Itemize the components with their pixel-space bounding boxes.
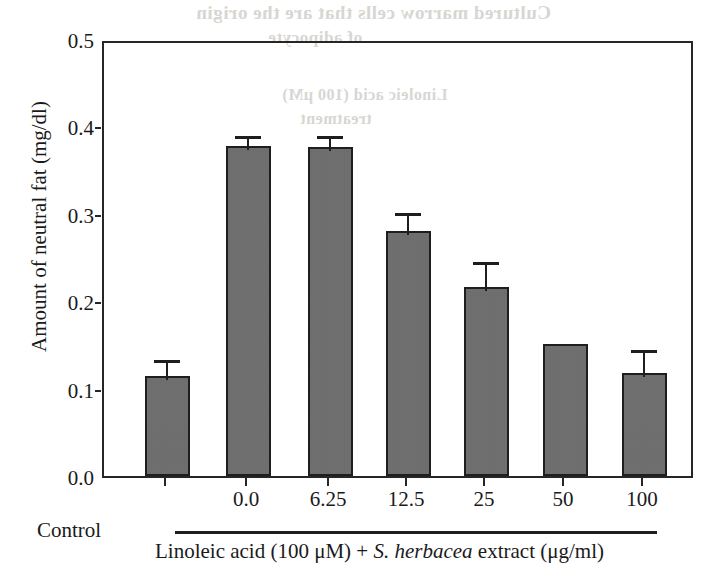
bar-group-50	[543, 39, 588, 476]
error-bar-stem-Control	[166, 363, 168, 379]
error-bar-cap-0-0	[235, 136, 261, 139]
x-tick-mark-1	[245, 478, 247, 486]
y-tick-label-0: 0.0	[68, 466, 94, 491]
x-tick-mark-2	[327, 478, 329, 486]
x-tick-label-25: 25	[474, 487, 495, 512]
plot-area	[102, 41, 693, 478]
error-bar-stem-25	[485, 265, 487, 291]
error-bar-stem-6-25	[329, 139, 331, 152]
bar-6-25	[308, 147, 353, 476]
figure-neutral-fat-bar-chart: Cultured marrow cells that are the origi…	[0, 0, 723, 578]
error-bar-stem-12-5	[407, 216, 409, 235]
error-bar-stem-100	[643, 353, 645, 377]
error-bar-cap-25	[473, 262, 499, 265]
bar-group-0-0	[226, 39, 271, 476]
x-tick-mark-3	[405, 478, 407, 486]
error-bar-cap-6-25	[317, 136, 343, 139]
x-tick-label-50: 50	[553, 487, 574, 512]
y-axis-title: Amount of neutral fat (mg/dl)	[27, 12, 52, 442]
bar-12-5	[386, 231, 431, 476]
bar-25	[464, 287, 509, 476]
x-tick-label-100: 100	[626, 487, 658, 512]
x-tick-label-6-25: 6.25	[310, 487, 347, 512]
bar-group-6-25	[308, 39, 353, 476]
x-tick-mark-0	[164, 478, 166, 486]
x-caption-suffix: extract (μg/ml)	[473, 539, 604, 563]
y-tick-mark-4	[95, 127, 101, 129]
y-tick-mark-2	[95, 302, 101, 304]
error-bar-stem-0-0	[247, 139, 249, 150]
x-axis-caption: Linoleic acid (100 μM) + S. herbacea ext…	[0, 539, 723, 564]
bleed-through-text-1: Cultured marrow cells that are the origi…	[196, 2, 551, 24]
x-caption-prefix: Linoleic acid (100 μM) +	[155, 539, 373, 563]
y-tick-label-2: 0.2	[68, 291, 94, 316]
bar-50	[543, 344, 588, 476]
bar-group-Control	[145, 39, 190, 476]
bar-group-100	[622, 39, 667, 476]
x-tick-mark-5	[562, 478, 564, 486]
y-tick-label-1: 0.1	[68, 378, 94, 403]
bar-0-0	[226, 146, 271, 476]
y-tick-label-3: 0.3	[68, 203, 94, 228]
treatment-group-rule	[175, 531, 657, 534]
y-tick-mark-1	[95, 390, 101, 392]
x-tick-label-0-0: 0.0	[233, 487, 259, 512]
bar-100	[622, 373, 667, 476]
error-bar-cap-Control	[154, 360, 180, 363]
y-tick-label-4: 0.4	[68, 116, 94, 141]
x-tick-label-12-5: 12.5	[388, 487, 425, 512]
y-tick-mark-3	[95, 215, 101, 217]
x-tick-mark-4	[483, 478, 485, 486]
error-bar-cap-100	[631, 350, 657, 353]
bar-group-12-5	[386, 39, 431, 476]
y-tick-label-5: 0.5	[68, 29, 94, 54]
bar-group-25	[464, 39, 509, 476]
error-bar-cap-12-5	[395, 213, 421, 216]
bar-Control	[145, 376, 190, 477]
x-tick-mark-6	[641, 478, 643, 486]
x-caption-species: S. herbacea	[373, 539, 472, 563]
bars-layer	[104, 43, 691, 476]
